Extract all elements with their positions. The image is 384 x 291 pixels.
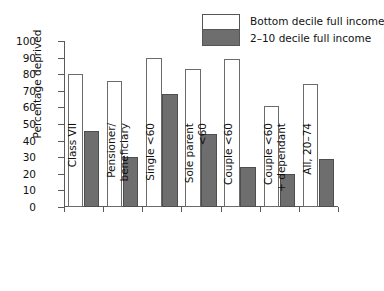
bar-2-10-decile [240,167,256,207]
x-category-label: All, 20–74 [301,123,314,213]
bar-2-10-decile [84,131,100,207]
x-tick-mark [103,207,104,212]
y-tick-label: 80 [0,68,36,80]
x-category-label: Pensioner/ beneficiary [105,123,130,213]
x-tick-mark [64,207,65,212]
y-tick-label: 30 [0,151,36,163]
y-tick-label: 50 [0,118,36,130]
x-tick-mark [299,207,300,212]
y-tick-label: 100 [0,35,36,47]
y-tick-label: 10 [0,184,36,196]
x-category-label: Couple <60 [222,123,235,213]
x-category-label: Couple <60 + dependant [262,123,287,213]
y-tick-label: 60 [0,101,36,113]
x-tick-mark [260,207,261,212]
legend-entry-bottom-decile: Bottom decile full income [250,13,384,30]
x-tick-mark [338,207,339,212]
y-tick-label: 0 [0,201,36,213]
y-tick-label: 70 [0,85,36,97]
bar-2-10-decile [319,159,335,207]
bar-2-10-decile [162,94,178,207]
y-tick-label: 40 [0,135,36,147]
x-category-label: Class VII [66,123,79,213]
x-category-label: Sole parent <60 [183,123,208,213]
x-category-label: Single <60 [144,123,157,213]
white-swatch-icon [203,15,239,30]
y-tick-label: 20 [0,168,36,180]
y-tick-label: 90 [0,52,36,64]
